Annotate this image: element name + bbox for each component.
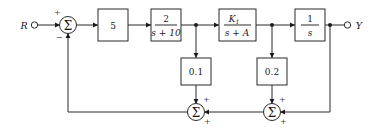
summing-junction-outer-sign-top: + — [279, 95, 286, 104]
arrowhead-lag10-in — [146, 23, 151, 28]
summing-junction-inner-sign-top: + — [203, 95, 210, 104]
arrowhead-integrator-in — [290, 23, 295, 28]
summing-junction-inner-glyph: Σ — [192, 106, 200, 120]
summing-junction-input-sign-plus: + — [54, 8, 61, 17]
arrowhead-fb01-in — [194, 53, 199, 58]
integrator-denominator: s — [308, 28, 313, 38]
arrowhead-k1-in — [214, 23, 219, 28]
output-terminal-circle[interactable] — [344, 22, 350, 28]
lag10-denominator: s + 10 — [151, 28, 181, 38]
summing-junction-input-glyph: Σ — [64, 19, 72, 33]
lag10-numerator: 2 — [163, 14, 169, 24]
summing-junction-outer-glyph: Σ — [268, 106, 276, 120]
summing-junction-input-sign-minus: − — [56, 33, 63, 42]
input-terminal-circle[interactable] — [31, 22, 37, 28]
block-diagram-svg: 5 2 s + 10 K1 s + A 1 s 0.1 0.2 Σ + − Σ … — [0, 0, 380, 131]
k1-denominator: s + A — [225, 28, 250, 38]
block-diagram-canvas: 5 2 s + 10 K1 s + A 1 s 0.1 0.2 Σ + − Σ … — [0, 0, 380, 131]
summing-junction-outer-sign-right: + — [280, 117, 287, 126]
output-label-y: Y — [356, 20, 364, 31]
summing-junction-inner-sign-right: + — [204, 117, 211, 126]
integrator-numerator: 1 — [307, 14, 313, 24]
feedback-gain-0.2-label: 0.2 — [265, 67, 279, 77]
input-label-r: R — [19, 20, 27, 31]
arrowhead-fb02-in — [270, 53, 275, 58]
arrowhead-gain5-in — [93, 23, 98, 28]
feedback-gain-0.1-label: 0.1 — [189, 67, 203, 77]
gain-block-5-label: 5 — [110, 21, 116, 31]
